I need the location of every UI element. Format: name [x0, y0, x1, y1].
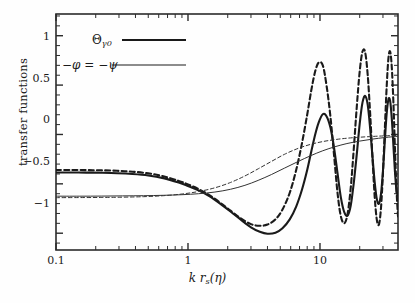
legend-lines	[112, 40, 186, 65]
y-tick-label-0p5: 0.5	[18, 72, 50, 85]
data-curves	[56, 49, 398, 233]
curve-1	[56, 49, 398, 225]
legend-label-theta-gamma0: Θγ0	[92, 33, 112, 48]
y-tick-label-m0p5: −0.5	[12, 155, 50, 168]
figure-transfer-functions: transfer functions k rs(η) 1 0.5 0 −0.5 …	[0, 0, 415, 303]
x-tick-label-10: 10	[306, 254, 334, 267]
curve-2	[56, 136, 398, 196]
curve-3	[56, 135, 398, 197]
y-tick-label-1: 1	[18, 30, 50, 43]
y-tick-label-0: 0	[18, 113, 50, 126]
x-tick-label-0p1: 0.1	[42, 254, 70, 267]
x-tick-label-1: 1	[176, 254, 200, 267]
x-axis-label: k rs(η)	[0, 271, 415, 286]
y-tick-label-m1: −1	[12, 197, 50, 210]
legend-label-phi-psi: −φ = −ψ	[62, 58, 118, 72]
